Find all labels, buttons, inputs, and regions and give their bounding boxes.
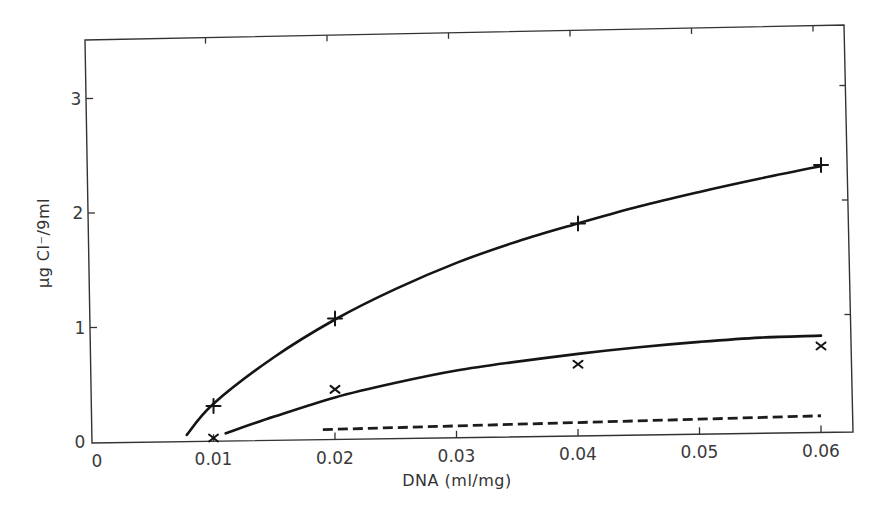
y-axis-title: μg Cl⁻/9ml [34, 198, 53, 288]
x-axis-title: DNA (ml/mg) [402, 471, 511, 490]
chart: 00.010.020.030.040.050.06 0123 DNA (ml/m… [0, 0, 890, 516]
y-tick-labels: 0123 [71, 89, 86, 453]
y-tick-label: 0 [75, 432, 86, 452]
x-tick-labels: 00.010.020.030.040.050.06 [92, 441, 840, 471]
data-series [187, 158, 828, 441]
axis-ticks [86, 26, 850, 442]
x-tick-label: 0.04 [559, 444, 597, 464]
x-tick-label: 0.05 [681, 442, 719, 462]
x-tick-label: 0.01 [195, 449, 233, 469]
dashed-line [323, 416, 821, 430]
y-tick-label: 1 [75, 318, 86, 338]
series-plus-markers [187, 158, 828, 435]
plot-frame [85, 25, 853, 443]
fit-curve [187, 166, 821, 435]
series-cross-markers [209, 336, 826, 442]
y-tick-label: 3 [71, 89, 82, 109]
x-tick-label: 0.03 [438, 446, 476, 466]
x-tick-label: 0.02 [316, 448, 354, 468]
series-dashed-baseline [323, 416, 821, 430]
y-tick-label: 2 [73, 203, 84, 223]
x-tick-label: 0.06 [802, 441, 840, 461]
x-tick-label: 0 [92, 451, 103, 471]
